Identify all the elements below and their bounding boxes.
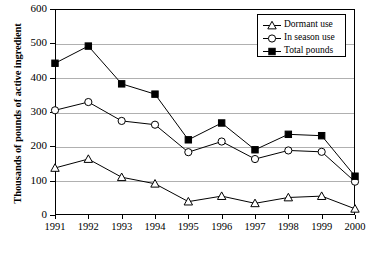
- series-total-pounds: [52, 43, 358, 180]
- x-tick-mark: [88, 215, 89, 219]
- x-tick-label: 2000: [335, 221, 374, 232]
- series-dormant-use: [51, 155, 359, 212]
- data-point: [318, 148, 325, 155]
- data-point: [185, 149, 192, 156]
- legend-item-dormant-use[interactable]: Dormant use: [262, 18, 344, 31]
- series-line: [55, 102, 355, 182]
- legend-item-in-season-use[interactable]: In season use: [262, 31, 344, 44]
- data-point: [118, 117, 125, 124]
- data-point: [151, 121, 158, 128]
- y-tick-label: 400: [17, 71, 47, 83]
- data-point: [318, 132, 324, 138]
- data-point: [51, 107, 58, 114]
- data-point: [218, 120, 224, 126]
- series-in-season-use: [51, 98, 358, 185]
- open-triangle-icon: [262, 18, 282, 31]
- data-point: [218, 138, 225, 145]
- data-point: [85, 98, 92, 105]
- data-point: [185, 137, 191, 143]
- filled-square-icon: [262, 44, 282, 57]
- legend-label: Dormant use: [284, 18, 333, 31]
- x-tick-mark: [122, 215, 123, 219]
- x-tick-mark: [288, 215, 289, 219]
- x-tick-mark: [255, 215, 256, 219]
- y-tick-label: 500: [17, 36, 47, 48]
- legend-label: Total pounds: [284, 44, 333, 57]
- open-circle-icon: [262, 31, 282, 44]
- data-point: [217, 192, 225, 200]
- y-tick-label: 0: [17, 208, 47, 220]
- data-point: [351, 205, 359, 213]
- data-point: [285, 131, 291, 137]
- data-point: [84, 155, 92, 163]
- legend: Dormant useIn season useTotal pounds: [257, 14, 346, 57]
- data-point: [352, 173, 358, 179]
- y-tick-label: 600: [17, 2, 47, 14]
- data-point: [118, 81, 124, 87]
- data-point: [251, 155, 258, 162]
- data-point: [85, 43, 91, 49]
- x-tick-mark: [188, 215, 189, 219]
- y-tick-label: 200: [17, 139, 47, 151]
- data-point: [317, 192, 325, 200]
- legend-label: In season use: [284, 31, 335, 44]
- series-line: [55, 46, 355, 176]
- x-tick-mark: [322, 215, 323, 219]
- x-tick-mark: [355, 215, 356, 219]
- x-tick-mark: [155, 215, 156, 219]
- y-tick-label: 300: [17, 105, 47, 117]
- legend-item-total-pounds[interactable]: Total pounds: [262, 44, 344, 57]
- data-point: [52, 60, 58, 66]
- data-point: [285, 147, 292, 154]
- data-point: [252, 147, 258, 153]
- data-point: [117, 173, 125, 181]
- x-tick-mark: [55, 215, 56, 219]
- series-line: [55, 159, 355, 209]
- line-chart: Thousands of pounds of active ingredient…: [0, 0, 374, 255]
- x-tick-mark: [222, 215, 223, 219]
- data-point: [152, 91, 158, 97]
- y-tick-label: 100: [17, 174, 47, 186]
